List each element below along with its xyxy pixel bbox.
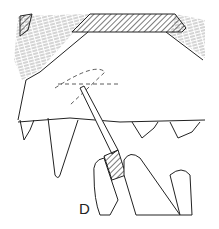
retractor bbox=[72, 14, 186, 32]
finger bbox=[124, 154, 180, 215]
scalpel bbox=[80, 86, 118, 154]
surgical-drawing bbox=[0, 0, 219, 229]
figure-label: D bbox=[79, 201, 90, 216]
canine-tooth bbox=[48, 118, 78, 178]
illustration: D bbox=[0, 0, 219, 229]
